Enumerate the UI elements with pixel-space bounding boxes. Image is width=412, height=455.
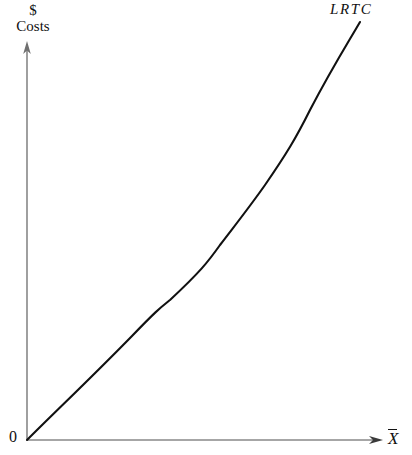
y-axis-title: $ Costs <box>0 2 66 34</box>
x-axis-variable-symbol: X <box>388 428 398 448</box>
y-axis-currency-symbol: $ <box>0 2 66 18</box>
lrtc-curve-label: LRTC <box>330 1 372 17</box>
lrtc-cost-chart: $ Costs 0 X LRTC <box>0 0 412 455</box>
origin-label: 0 <box>9 428 17 445</box>
y-axis-label-text: Costs <box>0 18 66 34</box>
lrtc-curve <box>27 22 360 440</box>
x-axis-label: X <box>388 428 398 448</box>
chart-canvas <box>0 0 412 455</box>
